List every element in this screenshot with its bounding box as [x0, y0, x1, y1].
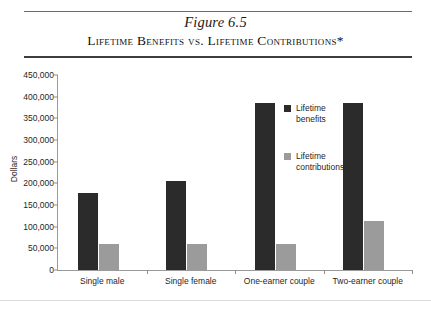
y-axis-tick-mark: [54, 96, 58, 97]
y-axis-tick-mark: [54, 161, 58, 162]
x-axis-category-label: One-earner couple: [236, 276, 322, 287]
figure-number: Figure 6.5: [0, 14, 431, 31]
y-axis-tick-mark: [54, 226, 58, 227]
x-axis-category-label: Single female: [148, 276, 234, 287]
legend-label-contributions: Lifetime contributions: [296, 151, 350, 173]
y-axis-tick-mark: [54, 140, 58, 141]
y-axis-tick-mark: [54, 205, 58, 206]
y-axis-tick-label: 300,000: [23, 135, 54, 145]
bar-benefits: [78, 193, 98, 270]
bar-contributions: [99, 244, 119, 270]
y-axis-tick-mark: [54, 118, 58, 119]
chart-legend: Lifetime benefits Lifetime contributions: [284, 103, 402, 199]
chart-frame: Dollars 450,000400,000350,000300,000250,…: [0, 62, 431, 301]
x-axis-tick-mark: [235, 270, 236, 274]
y-axis-tick-label: 50,000: [28, 243, 54, 253]
legend-item-contributions: Lifetime contributions: [284, 151, 402, 173]
y-axis-tick-label: 100,000: [23, 222, 54, 232]
y-axis-title: Dollars: [9, 139, 19, 199]
y-axis-tick-mark: [54, 248, 58, 249]
y-axis-tick-label: 150,000: [23, 200, 54, 210]
y-axis-tick-mark: [54, 183, 58, 184]
figure-page: Figure 6.5 Lifetime Benefits vs. Lifetim…: [0, 0, 431, 315]
title-rule-top: [24, 11, 412, 12]
bar-contributions: [187, 244, 207, 270]
bar-contributions: [276, 244, 296, 270]
x-axis-tick-mark: [324, 270, 325, 274]
x-axis-tick-mark: [147, 270, 148, 274]
bar-contributions: [364, 221, 384, 270]
figure-title-block: Figure 6.5 Lifetime Benefits vs. Lifetim…: [0, 0, 431, 60]
figure-title: Lifetime Benefits vs. Lifetime Contribut…: [0, 33, 431, 49]
y-axis-tick-label: 200,000: [23, 178, 54, 188]
title-rule-bottom: [24, 56, 412, 58]
x-axis-category-label: Two-earner couple: [325, 276, 411, 287]
y-axis-tick-label: 250,000: [23, 157, 54, 167]
bar-benefits: [166, 181, 186, 270]
x-axis-category-label: Single male: [59, 276, 145, 287]
legend-swatch-contributions: [284, 153, 291, 160]
y-axis-tick-label: 350,000: [23, 113, 54, 123]
y-axis-tick-label: 450,000: [23, 70, 54, 80]
y-axis-tick-mark: [54, 75, 58, 76]
bar-benefits: [255, 103, 275, 270]
legend-swatch-benefits: [284, 105, 291, 112]
legend-label-benefits: Lifetime benefits: [296, 103, 350, 125]
x-axis-tick-mark: [412, 270, 413, 274]
y-axis-tick-label: 400,000: [23, 92, 54, 102]
y-axis-tick-mark: [54, 270, 58, 271]
legend-item-benefits: Lifetime benefits: [284, 103, 402, 125]
